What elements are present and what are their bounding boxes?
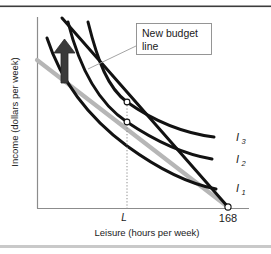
curve-label-i3-base: I — [236, 131, 239, 143]
new-optimum-marker — [124, 99, 130, 105]
curve-label-i1-sub: 1 — [242, 188, 246, 197]
time-endowment-marker — [225, 204, 231, 210]
curve-label-i1-base: I — [236, 182, 239, 194]
figure-panel: New budget line I 3 I 2 I 1 L 168 Leisur… — [0, 0, 271, 254]
callout-line-1: New budget — [142, 27, 198, 39]
bottom-rule — [0, 245, 271, 248]
old-optimum-marker — [124, 119, 130, 125]
curve-label-i2-sub: 2 — [241, 159, 247, 168]
x-tick-label-L: L — [121, 212, 127, 223]
x-axis-title: Leisure (hours per week) — [94, 227, 199, 238]
curve-label-i2-base: I — [236, 153, 239, 165]
callout-line-2: line — [142, 40, 159, 52]
x-tick-label-168: 168 — [219, 212, 237, 224]
top-rule — [0, 6, 271, 8]
y-axis-title: Income (dollars per week) — [9, 57, 20, 166]
